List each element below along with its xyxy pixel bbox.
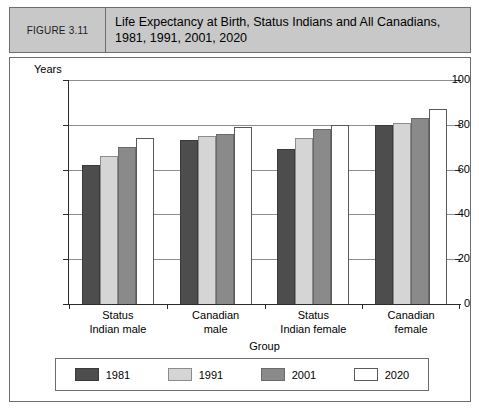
bar-set <box>362 80 460 304</box>
x-axis-category-line: Canadian <box>167 308 265 322</box>
x-axis-category-line: Status <box>69 308 167 322</box>
legend-label-1991: 1991 <box>199 369 223 381</box>
legend-label-2020: 2020 <box>385 369 409 381</box>
x-axis-labels: StatusIndian maleCanadianmaleStatusIndia… <box>69 308 460 336</box>
bar-group <box>167 80 265 304</box>
bar-groups <box>69 80 460 304</box>
x-axis-category-line: Canadian <box>362 308 460 322</box>
x-axis-category-line: male <box>167 322 265 336</box>
bar-1991 <box>100 156 118 304</box>
x-axis-category-label: StatusIndian male <box>69 308 167 336</box>
figure-number-label: FIGURE 3.11 <box>10 8 106 52</box>
bar-1981 <box>180 140 198 304</box>
legend-swatch-2001 <box>261 368 285 381</box>
bar-group <box>362 80 460 304</box>
bar-2020 <box>234 127 252 304</box>
figure-header: FIGURE 3.11 Life Expectancy at Birth, St… <box>9 7 471 53</box>
x-axis-category-label: StatusIndian female <box>265 308 363 336</box>
legend-label-1981: 1981 <box>106 369 130 381</box>
figure-title: Life Expectancy at Birth, Status Indians… <box>106 8 470 52</box>
x-axis-category-line: Indian male <box>69 322 167 336</box>
y-axis-title: Years <box>34 63 62 75</box>
bar-set <box>167 80 265 304</box>
plot-wrapper: Years 020406080100 StatusIndian maleCana… <box>10 58 470 401</box>
bar-2001 <box>313 129 331 304</box>
chart-frame: Years 020406080100 StatusIndian maleCana… <box>9 57 471 402</box>
legend-swatch-1981 <box>75 368 99 381</box>
legend-swatch-1991 <box>168 368 192 381</box>
legend-label-2001: 2001 <box>292 369 316 381</box>
bar-2001 <box>118 147 136 304</box>
legend-item-1981[interactable]: 1981 <box>75 368 130 381</box>
bar-group <box>265 80 363 304</box>
legend-item-2020[interactable]: 2020 <box>354 368 409 381</box>
bar-1991 <box>295 138 313 304</box>
x-axis-category-line: Status <box>265 308 363 322</box>
bar-2020 <box>429 109 447 304</box>
bar-1981 <box>277 149 295 304</box>
legend-item-2001[interactable]: 2001 <box>261 368 316 381</box>
chart-legend: 1981199120012020 <box>55 358 429 391</box>
x-axis-category-label: Canadianmale <box>167 308 265 336</box>
bar-1991 <box>393 123 411 304</box>
bar-2001 <box>216 134 234 304</box>
x-axis-category-line: Indian female <box>265 322 363 336</box>
x-axis-category-line: female <box>362 322 460 336</box>
figure-container: FIGURE 3.11 Life Expectancy at Birth, St… <box>0 0 479 411</box>
bar-1981 <box>82 165 100 304</box>
bar-2020 <box>331 125 349 304</box>
bar-2001 <box>411 118 429 304</box>
legend-swatch-2020 <box>354 368 378 381</box>
legend-item-1991[interactable]: 1991 <box>168 368 223 381</box>
bar-1991 <box>198 136 216 304</box>
x-axis-category-label: Canadianfemale <box>362 308 460 336</box>
bar-set <box>265 80 363 304</box>
bar-set <box>69 80 167 304</box>
bar-1981 <box>375 125 393 304</box>
x-axis-title: Group <box>69 340 460 352</box>
bar-2020 <box>136 138 154 304</box>
bar-group <box>69 80 167 304</box>
